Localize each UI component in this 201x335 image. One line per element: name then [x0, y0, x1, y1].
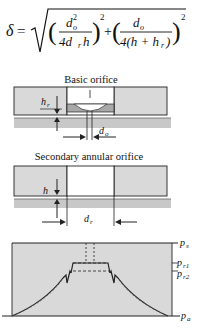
svg-text:r2: r2 [183, 273, 190, 281]
basic-orifice-title: Basic orifice [64, 74, 118, 85]
svg-text:r: r [161, 41, 165, 50]
annular-orifice-title: Secondary annular orifice [35, 151, 144, 162]
pr2-label: p [176, 268, 182, 279]
pa-label: p [180, 310, 186, 321]
annular-orifice-diagram: Secondary annular orifice h d r [14, 151, 171, 226]
svg-text:a: a [187, 315, 191, 323]
pressure-distribution-plot: p s p r1 p r2 p a [2, 237, 191, 323]
svg-text:4d: 4d [59, 34, 73, 49]
svg-text:d: d [133, 15, 140, 30]
svg-text:r: r [47, 101, 50, 109]
svg-text:r: r [78, 41, 82, 50]
basic-orifice-diagram: Basic orifice h r d o [14, 74, 171, 140]
left-paren-1: ( [48, 17, 57, 46]
svg-text:o: o [140, 23, 144, 32]
svg-text:): ) [165, 34, 170, 49]
delta-equation: δ = ( d o 2 4d r h ) 2 + ( d o 4(h + h r… [6, 9, 186, 52]
orifice-pressure-diagram: δ = ( d o 2 4d r h ) 2 + ( d o 4(h + h r… [0, 0, 201, 335]
right-paren-2: ) [172, 17, 181, 46]
delta-symbol: δ [6, 22, 14, 39]
svg-text:o: o [105, 130, 109, 138]
svg-text:2: 2 [100, 12, 105, 22]
equals-sign: = [17, 23, 25, 39]
pr1-label: p [176, 257, 182, 268]
annular-pad-right [114, 166, 167, 196]
svg-text:o: o [73, 23, 77, 32]
svg-text:2: 2 [73, 13, 77, 22]
guide-surface [14, 118, 171, 128]
svg-text:d: d [66, 15, 73, 30]
svg-text:2: 2 [181, 12, 186, 22]
h-label: h [43, 185, 48, 196]
svg-text:h: h [83, 34, 90, 49]
svg-text:r: r [90, 218, 93, 226]
ps-label: p [179, 237, 185, 248]
hr-label: h [41, 96, 46, 107]
svg-text:4(h + h: 4(h + h [120, 34, 159, 49]
svg-text:r1: r1 [183, 262, 189, 270]
annular-guide-surface [14, 199, 171, 208]
bearing-pad-right [114, 87, 167, 115]
plus-sign: + [104, 24, 112, 39]
annular-recess [67, 166, 114, 196]
svg-text:s: s [186, 242, 189, 250]
